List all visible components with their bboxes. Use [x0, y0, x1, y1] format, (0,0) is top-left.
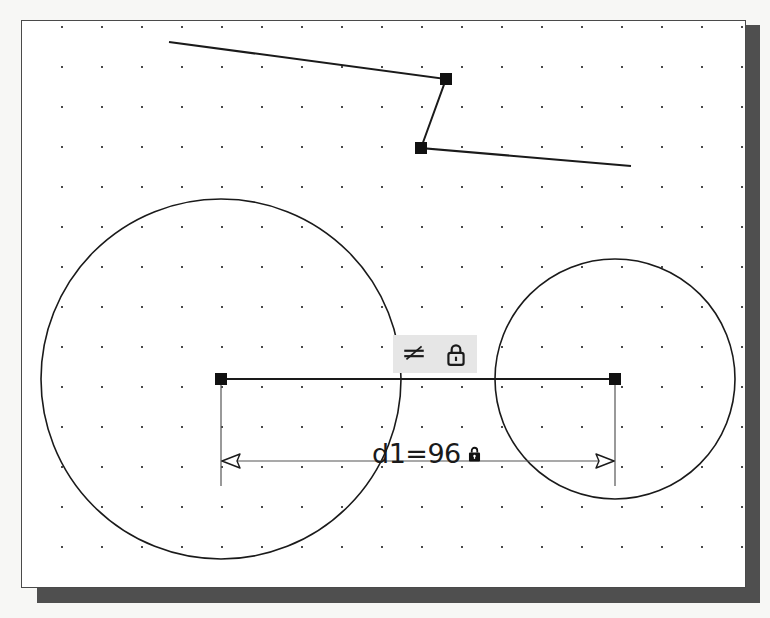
dimension-lock-icon[interactable]: [466, 445, 483, 463]
sketch-canvas[interactable]: d1=96: [22, 21, 745, 587]
polyline-top[interactable]: [169, 42, 631, 166]
handle-polyline-vertex-2[interactable]: [415, 142, 427, 154]
sketch-window[interactable]: d1=96: [21, 20, 746, 588]
handle-circle-right-center[interactable]: [609, 373, 621, 385]
handle-polyline-vertex-1[interactable]: [440, 73, 452, 85]
dimension-arrowhead-left-icon: [222, 454, 240, 468]
geometry-layer[interactable]: [22, 21, 745, 587]
handle-circle-left-center[interactable]: [215, 373, 227, 385]
equal-constraint-icon[interactable]: [401, 341, 427, 367]
dimension-label[interactable]: d1=96: [372, 436, 483, 470]
dimension-value-text: d1=96: [372, 440, 461, 467]
constraint-badge-group[interactable]: [393, 335, 477, 373]
dimension-arrowhead-right-icon: [596, 454, 614, 468]
screen-root: d1=96: [0, 0, 770, 618]
lock-constraint-icon[interactable]: [443, 341, 469, 367]
